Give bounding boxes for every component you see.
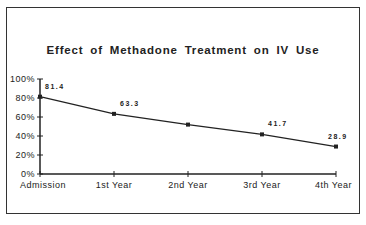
data-point-marker — [112, 112, 116, 116]
data-value-label: 63.3 — [120, 100, 140, 107]
x-tick-label: 2nd Year — [168, 180, 208, 190]
data-value-label: 28.9 — [328, 133, 348, 140]
x-tick-label: Admission — [20, 180, 66, 190]
data-value-label: 41.7 — [268, 120, 288, 127]
x-tick-label: 3rd Year — [243, 180, 281, 190]
y-tick-label: 100% — [10, 74, 35, 84]
y-tick-label: 20% — [15, 150, 35, 160]
y-tick-label: 0% — [21, 169, 35, 179]
data-point-marker — [260, 132, 264, 136]
x-tick-label: 4th Year — [315, 180, 352, 190]
y-tick-label: 80% — [15, 93, 35, 103]
x-tick-label: 1st Year — [96, 180, 133, 190]
y-tick-label: 40% — [15, 131, 35, 141]
data-line — [40, 97, 336, 147]
data-value-label: 81.4 — [45, 83, 65, 90]
data-point-marker — [334, 145, 338, 149]
line-chart-plot: 0%20%40%60%80%100%Admission1st Year2nd Y… — [0, 0, 366, 225]
data-point-marker — [186, 123, 190, 127]
y-tick-label: 60% — [15, 112, 35, 122]
data-point-marker — [38, 95, 42, 99]
